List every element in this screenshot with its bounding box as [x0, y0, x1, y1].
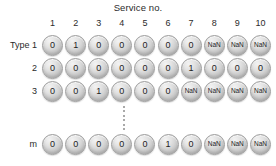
ellipsis-dot — [123, 106, 125, 108]
column-header-6: 6 — [156, 17, 179, 30]
matrix-cell: 0 — [226, 57, 249, 79]
cell-bead: 0 — [134, 35, 155, 56]
matrix-cell: NaN — [180, 80, 203, 102]
cell-bead: 0 — [111, 81, 132, 102]
row-cells: 0 0 0 0 0 1 0 NaN NaN NaN — [41, 133, 272, 155]
ellipsis-dot — [123, 115, 125, 117]
matrix-cell: NaN — [203, 80, 226, 102]
ellipsis-dot — [123, 110, 125, 112]
ellipsis-dot — [123, 128, 125, 130]
matrix-cell: NaN — [226, 34, 249, 56]
matrix-row: 2 0 0 0 0 0 0 1 0 0 0 — [0, 57, 276, 79]
matrix-cell: NaN — [249, 34, 272, 56]
cell-bead: 0 — [204, 58, 225, 79]
matrix-cell: 1 — [180, 57, 203, 79]
column-header-4: 4 — [110, 17, 133, 30]
matrix-cell: 1 — [64, 34, 87, 56]
cell-bead: 0 — [88, 134, 109, 155]
row-cells: 0 0 1 0 0 0 NaN NaN NaN NaN — [41, 80, 272, 102]
matrix-cell: 0 — [87, 57, 110, 79]
cell-bead: 0 — [42, 134, 63, 155]
cell-bead: 0 — [42, 35, 63, 56]
matrix-cell: 0 — [41, 133, 64, 155]
matrix-cell: 0 — [41, 57, 64, 79]
matrix-row: m 0 0 0 0 0 1 0 NaN NaN NaN — [0, 133, 276, 155]
cell-bead: 0 — [158, 58, 179, 79]
row-label-2: 2 — [0, 57, 38, 79]
cell-bead: 0 — [158, 35, 179, 56]
cell-bead: 0 — [65, 134, 86, 155]
matrix-cell: 0 — [203, 57, 226, 79]
column-header-9: 9 — [226, 17, 249, 30]
service-type-matrix-figure: Service no. 1 2 3 4 5 6 7 8 9 10 Type 1 … — [0, 0, 276, 166]
cell-bead-nan: NaN — [250, 81, 271, 102]
matrix-row: Type 1 0 1 0 0 0 0 0 NaN NaN NaN — [0, 34, 276, 56]
matrix-cell: 0 — [249, 57, 272, 79]
row-cells: 0 1 0 0 0 0 0 NaN NaN NaN — [41, 34, 272, 56]
matrix-cell: 0 — [133, 34, 156, 56]
cell-bead: 0 — [134, 81, 155, 102]
matrix-cell: 0 — [156, 34, 179, 56]
cell-bead: 0 — [111, 134, 132, 155]
cell-bead: 0 — [42, 81, 63, 102]
cell-bead: 0 — [111, 58, 132, 79]
cell-bead-nan: NaN — [227, 81, 248, 102]
cell-bead: 0 — [250, 58, 271, 79]
column-header-10: 10 — [249, 17, 272, 30]
matrix-cell: 1 — [156, 133, 179, 155]
cell-bead: 0 — [111, 35, 132, 56]
cell-bead: 0 — [88, 35, 109, 56]
cell-bead: 0 — [42, 58, 63, 79]
ellipsis-dot — [123, 124, 125, 126]
cell-bead-nan: NaN — [204, 81, 225, 102]
matrix-cell: 0 — [87, 34, 110, 56]
matrix-row: 3 0 0 1 0 0 0 NaN NaN NaN NaN — [0, 80, 276, 102]
figure-title: Service no. — [0, 2, 276, 13]
cell-bead-nan: NaN — [250, 134, 271, 155]
row-label-type-1: Type 1 — [0, 34, 38, 56]
matrix-cell: 0 — [133, 57, 156, 79]
matrix-cell: 0 — [110, 133, 133, 155]
matrix-cell: 0 — [110, 57, 133, 79]
cell-bead: 1 — [181, 58, 202, 79]
cell-bead-nan: NaN — [181, 81, 202, 102]
matrix-cell: 0 — [156, 80, 179, 102]
vertical-ellipsis-icon — [121, 106, 127, 130]
matrix-cell: NaN — [226, 133, 249, 155]
matrix-cell: 0 — [64, 133, 87, 155]
cell-bead: 1 — [65, 35, 86, 56]
matrix-cell: NaN — [203, 34, 226, 56]
matrix-cell: NaN — [249, 80, 272, 102]
column-header-5: 5 — [133, 17, 156, 30]
matrix-cell: 0 — [64, 80, 87, 102]
matrix-cell: 0 — [110, 80, 133, 102]
cell-bead: 0 — [65, 58, 86, 79]
matrix-cell: 0 — [133, 80, 156, 102]
cell-bead-nan: NaN — [227, 134, 248, 155]
cell-bead: 0 — [181, 35, 202, 56]
ellipsis-dot — [123, 119, 125, 121]
cell-bead-nan: NaN — [250, 35, 271, 56]
matrix-cell: 0 — [87, 133, 110, 155]
cell-bead: 0 — [134, 58, 155, 79]
column-header-3: 3 — [87, 17, 110, 30]
column-header-1: 1 — [41, 17, 64, 30]
matrix-cell: 0 — [156, 57, 179, 79]
matrix-cell: NaN — [226, 80, 249, 102]
row-label-m: m — [0, 133, 38, 155]
matrix-cell: 1 — [87, 80, 110, 102]
matrix-cell: 0 — [64, 57, 87, 79]
matrix-cell: 0 — [180, 34, 203, 56]
column-header-8: 8 — [203, 17, 226, 30]
matrix-cell: 0 — [133, 133, 156, 155]
cell-bead: 0 — [65, 81, 86, 102]
cell-bead: 0 — [134, 134, 155, 155]
column-header-row: 1 2 3 4 5 6 7 8 9 10 — [41, 17, 272, 30]
column-header-2: 2 — [64, 17, 87, 30]
matrix-cell: 0 — [41, 34, 64, 56]
matrix-cell: 0 — [110, 34, 133, 56]
cell-bead: 1 — [88, 81, 109, 102]
row-label-3: 3 — [0, 80, 38, 102]
row-cells: 0 0 0 0 0 0 1 0 0 0 — [41, 57, 272, 79]
matrix-cell: NaN — [249, 133, 272, 155]
